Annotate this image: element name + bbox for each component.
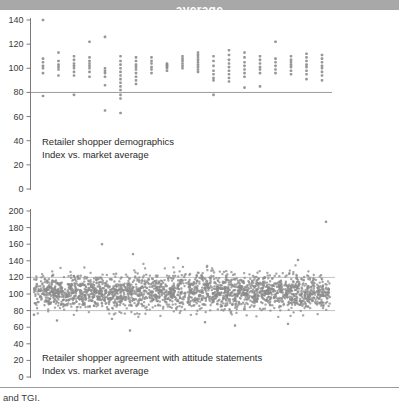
- scatter-point: [212, 269, 214, 271]
- scatter-point: [57, 302, 59, 304]
- scatter-point: [44, 278, 46, 280]
- scatter-point: [231, 295, 233, 297]
- scatter-point: [192, 284, 194, 286]
- scatter-point: [243, 61, 246, 64]
- scatter-point: [197, 68, 200, 71]
- scatter-point: [193, 287, 195, 289]
- scatter-point: [134, 271, 136, 273]
- scatter-point: [42, 95, 45, 98]
- scatter-point: [218, 299, 220, 301]
- scatter-point: [206, 266, 208, 268]
- scatter-point: [114, 285, 116, 287]
- scatter-point: [325, 287, 327, 289]
- scatter-point: [224, 308, 226, 310]
- scatter-point: [119, 85, 122, 88]
- scatter-point: [119, 89, 122, 92]
- scatter-point: [290, 61, 293, 64]
- scatter-point: [180, 287, 182, 289]
- scatter-point: [243, 293, 245, 295]
- scatter-point: [205, 297, 207, 299]
- scatter-point: [228, 66, 231, 69]
- scatter-point: [119, 71, 122, 74]
- scatter-point: [44, 281, 46, 283]
- scatter-point: [73, 94, 76, 97]
- scatter-point: [35, 275, 37, 277]
- scatter-point: [212, 79, 215, 82]
- scatter-point: [68, 284, 70, 286]
- scatter-point: [259, 270, 261, 272]
- scatter-point: [239, 297, 241, 299]
- scatter-point: [124, 299, 126, 301]
- scatter-point: [84, 288, 86, 290]
- scatter-point: [73, 314, 75, 316]
- scatter-point: [93, 305, 95, 307]
- scatter-point: [70, 284, 72, 286]
- charts-svg: 020406080100120140 020406080100120140160…: [0, 0, 399, 403]
- y-tick-label: 120: [8, 272, 23, 282]
- scatter-point: [321, 71, 324, 74]
- scatter-point: [189, 284, 191, 286]
- scatter-point: [60, 290, 62, 292]
- scatter-point: [234, 278, 236, 280]
- scatter-point: [205, 311, 207, 313]
- scatter-point: [45, 296, 47, 298]
- scatter-point: [321, 54, 324, 57]
- scatter-point: [279, 281, 281, 283]
- scatter-point: [290, 63, 293, 66]
- scatter-point: [163, 291, 165, 293]
- scatter-point: [74, 278, 76, 280]
- scatter-point: [154, 305, 156, 307]
- scatter-point: [101, 273, 103, 275]
- scatter-point: [130, 311, 132, 313]
- scatter-point: [319, 285, 321, 287]
- scatter-point: [290, 287, 292, 289]
- scatter-point: [243, 65, 246, 68]
- scatter-point: [286, 291, 288, 293]
- footer-rule: [0, 387, 399, 388]
- scatter-point: [114, 275, 116, 277]
- scatter-point: [314, 301, 316, 303]
- scatter-point: [96, 295, 98, 297]
- scatter-point: [97, 277, 99, 279]
- scatter-point: [303, 307, 305, 309]
- scatter-point: [161, 294, 163, 296]
- scatter-point: [135, 75, 138, 78]
- scatter-point: [234, 273, 236, 275]
- scatter-point: [91, 283, 93, 285]
- scatter-point: [321, 74, 324, 77]
- scatter-point: [53, 295, 55, 297]
- scatter-point: [262, 308, 264, 310]
- scatter-point: [211, 296, 213, 298]
- scatter-point: [119, 60, 122, 63]
- scatter-point: [104, 300, 106, 302]
- scatter-point: [207, 283, 209, 285]
- scatter-point: [181, 274, 183, 276]
- scatter-point: [77, 275, 79, 277]
- scatter-point: [201, 286, 203, 288]
- scatter-point: [269, 280, 271, 282]
- scatter-point: [137, 279, 139, 281]
- scatter-point: [217, 308, 219, 310]
- scatter-point: [158, 281, 160, 283]
- scatter-point: [254, 297, 256, 299]
- scatter-point: [212, 94, 215, 97]
- scatter-point: [137, 300, 139, 302]
- scatter-point: [224, 281, 226, 283]
- scatter-point: [235, 286, 237, 288]
- scatter-point: [204, 287, 206, 289]
- scatter-point: [279, 305, 281, 307]
- bottom-scatter-cloud: [33, 221, 331, 332]
- y-tick-label: 80: [13, 87, 23, 97]
- scatter-point: [70, 305, 72, 307]
- y-tick-label: 20: [13, 160, 23, 170]
- scatter-point: [112, 295, 114, 297]
- scatter-point: [198, 298, 200, 300]
- scatter-point: [43, 294, 45, 296]
- scatter-point: [118, 311, 120, 313]
- scatter-point: [74, 285, 76, 287]
- scatter-point: [208, 288, 210, 290]
- scatter-point: [88, 311, 90, 313]
- scatter-point: [235, 312, 237, 314]
- scatter-point: [288, 309, 290, 311]
- scatter-point: [130, 305, 132, 307]
